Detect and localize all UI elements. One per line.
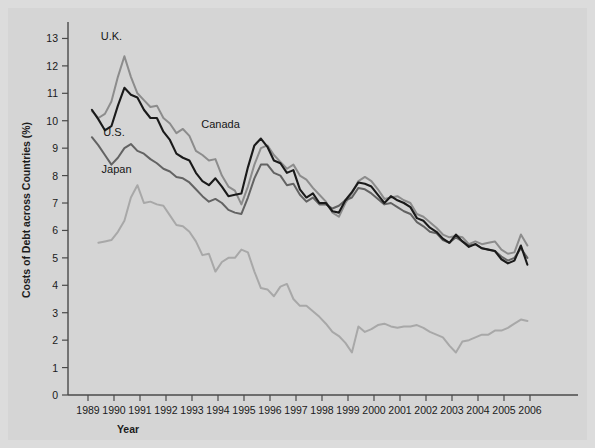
x-tick-label: 1998	[310, 404, 334, 416]
y-tick-label: 12	[46, 60, 58, 72]
x-tick-label: 1992	[154, 404, 178, 416]
x-tick-label: 1996	[258, 404, 282, 416]
series-line-japan	[98, 185, 527, 352]
series-label-canada: Canada	[201, 118, 240, 130]
series-label-uk: U.K.	[101, 30, 122, 42]
x-tick-label: 1994	[206, 404, 230, 416]
y-axis-title: Costs of Debt across Countries (%)	[20, 122, 32, 298]
y-tick-label: 10	[46, 115, 58, 127]
y-tick-label: 9	[52, 142, 58, 154]
x-tick-label: 1989	[76, 404, 100, 416]
y-tick-label: 3	[52, 307, 58, 319]
x-tick-label: 2006	[518, 404, 542, 416]
y-tick-label: 6	[52, 224, 58, 236]
x-tick-label: 1991	[128, 404, 152, 416]
y-tick-label: 7	[52, 197, 58, 209]
axes: 0123456789101112131989199019911992199319…	[46, 22, 578, 416]
x-tick-label: 2003	[440, 404, 464, 416]
y-tick-label: 1	[52, 362, 58, 374]
series-label-us: U.S.	[103, 126, 124, 138]
x-tick-label: 2004	[466, 404, 490, 416]
chart-figure: 0123456789101112131989199019911992199319…	[0, 0, 595, 448]
y-tick-label: 13	[46, 32, 58, 44]
x-tick-label: 2002	[414, 404, 438, 416]
x-tick-label: 1997	[284, 404, 308, 416]
y-tick-label: 8	[52, 170, 58, 182]
y-tick-label: 0	[52, 389, 58, 401]
line-chart: 0123456789101112131989199019911992199319…	[0, 0, 595, 448]
y-tick-label: 2	[52, 334, 58, 346]
x-axis-title: Year	[117, 423, 139, 435]
series-line-uk	[92, 56, 528, 253]
x-tick-label: 2000	[362, 404, 386, 416]
x-tick-label: 2001	[388, 404, 412, 416]
data-series-group	[92, 56, 528, 352]
x-tick-label: 1993	[180, 404, 204, 416]
y-tick-label: 5	[52, 252, 58, 264]
x-tick-label: 2005	[492, 404, 516, 416]
y-tick-label: 4	[52, 279, 58, 291]
x-tick-label: 1995	[232, 404, 256, 416]
series-label-japan: Japan	[102, 163, 132, 175]
y-tick-label: 11	[47, 87, 58, 99]
x-tick-label: 1999	[336, 404, 360, 416]
x-tick-label: 1990	[102, 404, 126, 416]
